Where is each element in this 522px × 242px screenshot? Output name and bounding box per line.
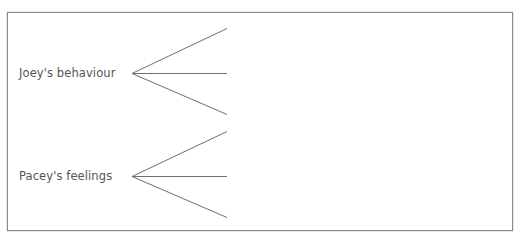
branch-diagram	[0, 0, 522, 242]
branch-line	[132, 29, 227, 74]
branch-line	[132, 132, 227, 177]
branch-line	[132, 177, 227, 218]
tree-joeys-behaviour	[132, 29, 227, 115]
tree-paceys-feelings	[132, 132, 227, 218]
branch-line	[132, 74, 227, 115]
